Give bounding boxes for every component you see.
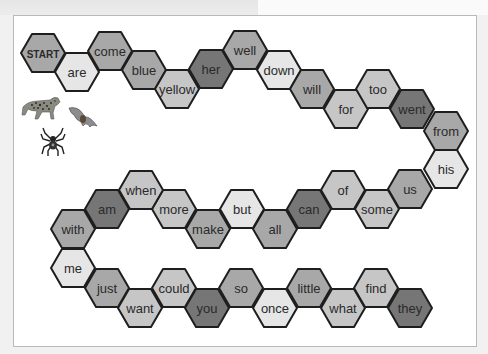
space-word: could — [158, 281, 189, 296]
space-word: START — [27, 49, 60, 60]
space-word: yellow — [159, 82, 196, 97]
space-word: but — [233, 202, 251, 217]
space-word: all — [268, 222, 281, 237]
space-word: of — [338, 183, 349, 198]
space-word: went — [397, 102, 426, 117]
board-space-with[interactable]: with — [51, 210, 95, 248]
space-word: will — [302, 82, 321, 97]
space-word: some — [361, 202, 393, 217]
space-word: her — [202, 62, 221, 77]
space-word: when — [124, 183, 156, 198]
space-word: find — [366, 281, 387, 296]
space-word: more — [159, 202, 189, 217]
board-space-went[interactable]: went — [390, 90, 434, 128]
leopard-icon — [20, 93, 62, 121]
bat-icon — [66, 104, 100, 134]
space-word: well — [233, 43, 257, 58]
space-word: down — [263, 63, 294, 78]
board-space-his[interactable]: his — [424, 150, 468, 188]
spider-icon — [40, 127, 66, 157]
space-word: so — [234, 281, 248, 296]
space-word: want — [125, 301, 154, 316]
space-word: blue — [132, 63, 157, 78]
board-space-from[interactable]: from — [424, 112, 468, 150]
board-space-they[interactable]: they — [388, 289, 432, 327]
space-word: are — [68, 65, 87, 80]
space-word: too — [369, 82, 387, 97]
space-word: once — [261, 301, 289, 316]
space-word: am — [98, 202, 116, 217]
space-word: come — [94, 44, 126, 59]
hex-path-board: STARTarecomeblueyellowherwelldownwillfor… — [0, 0, 488, 354]
space-word: little — [297, 281, 320, 296]
space-word: his — [438, 162, 455, 177]
space-word: just — [96, 281, 118, 296]
space-word: from — [433, 124, 459, 139]
space-word: they — [398, 301, 423, 316]
space-word: with — [60, 222, 84, 237]
space-word: us — [403, 182, 417, 197]
space-word: you — [197, 301, 218, 316]
space-word: what — [328, 301, 357, 316]
space-word: make — [192, 222, 224, 237]
space-word: can — [299, 202, 320, 217]
space-word: for — [338, 102, 354, 117]
space-word: me — [64, 261, 82, 276]
